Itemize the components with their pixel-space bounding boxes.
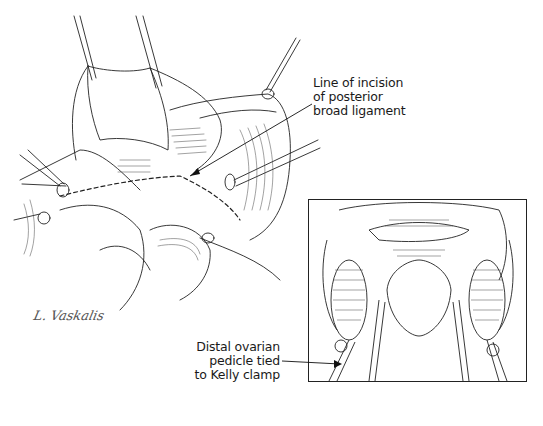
incision-leader-line <box>190 104 312 176</box>
callout-incision: Line of incision of posterior broad liga… <box>313 76 405 118</box>
arrowhead-icon <box>190 168 200 176</box>
callout-line: pedicle tied <box>195 354 280 368</box>
callout-line: of posterior <box>313 90 405 104</box>
callout-line: Distal ovarian <box>195 340 280 354</box>
inset-illustration <box>309 200 526 381</box>
callout-line: broad ligament <box>313 104 405 118</box>
callout-line: to Kelly clamp <box>195 368 280 382</box>
clamp-icon <box>74 16 300 92</box>
artist-signature: L. Vaskalis <box>32 308 105 323</box>
callout-line: Line of incision <box>313 76 405 90</box>
callout-pedicle: Distal ovarian pedicle tied to Kelly cla… <box>195 340 280 382</box>
inset-panel <box>308 199 527 382</box>
